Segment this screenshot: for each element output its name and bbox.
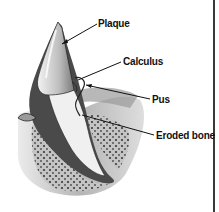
label-plaque: Plaque [98,18,130,29]
leader-line-calculus [78,62,121,80]
arrowhead-pus [86,84,92,88]
label-pus: Pus [152,94,170,105]
label-calculus: Calculus [123,56,163,67]
label-eroded-bone: Eroded bone [156,130,215,141]
tooth-illustration [0,0,219,212]
